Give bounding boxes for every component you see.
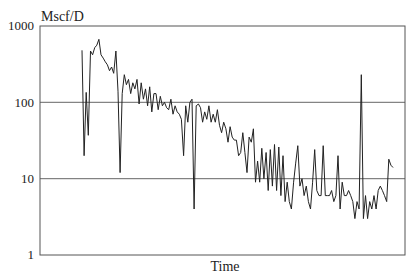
y-tick-1: 1 — [28, 247, 35, 262]
y-tick-1000: 1000 — [8, 18, 34, 33]
y-tick-100: 100 — [15, 95, 35, 110]
chart: Mscf/D Time 1000 100 10 1 — [0, 0, 418, 279]
x-axis-label: Time — [210, 259, 239, 274]
y-axis-label: Mscf/D — [41, 9, 84, 24]
data-series-line — [82, 39, 393, 218]
y-tick-10: 10 — [21, 171, 34, 186]
plot-frame — [40, 26, 405, 255]
